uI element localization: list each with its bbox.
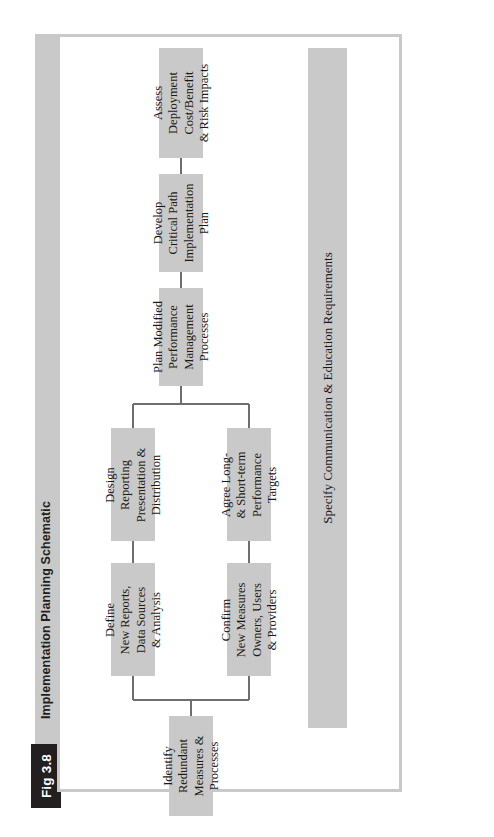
node-label: DevelopCritical PathImplementationPlan bbox=[151, 183, 212, 262]
node-develop-critical-path: DevelopCritical PathImplementationPlan bbox=[159, 174, 203, 272]
node-label: DesignReportingPresentation &Distributio… bbox=[103, 447, 164, 522]
banner-specify-communication: Specify Communication & Education Requir… bbox=[308, 48, 347, 728]
node-define-new-reports: DefineNew Reports,Data Sources& Analysis bbox=[111, 563, 155, 676]
figure-title: Implementation Planning Schematic bbox=[39, 501, 53, 719]
node-identify-redundant: IdentifyRedundantMeasures &Processes bbox=[169, 716, 213, 816]
node-plan-modified-performance: Plan ModifiedPerformanceManagementProces… bbox=[159, 288, 203, 386]
node-label: IdentifyRedundantMeasures &Processes bbox=[161, 736, 222, 797]
node-design-reporting: DesignReportingPresentation &Distributio… bbox=[111, 428, 155, 541]
node-label: Agree Long-& Short-termPerformanceTarget… bbox=[219, 451, 280, 518]
banner-label: Specify Communication & Education Requir… bbox=[320, 252, 336, 524]
diagram-frame bbox=[57, 34, 402, 792]
node-label: ConfirmNew MeasuresOwners, Users& Provid… bbox=[219, 582, 280, 657]
figure-number-label: Fig 3.8 bbox=[39, 754, 54, 798]
node-confirm-new-measures: ConfirmNew MeasuresOwners, Users& Provid… bbox=[227, 563, 271, 676]
node-label: AssessDeploymentCost/Benefit& Risk Impac… bbox=[151, 64, 212, 142]
node-label: Plan ModifiedPerformanceManagementProces… bbox=[151, 301, 212, 373]
node-agree-targets: Agree Long-& Short-termPerformanceTarget… bbox=[227, 428, 271, 541]
node-label: DefineNew Reports,Data Sources& Analysis bbox=[103, 585, 164, 654]
node-assess-deployment: AssessDeploymentCost/Benefit& Risk Impac… bbox=[159, 48, 203, 158]
